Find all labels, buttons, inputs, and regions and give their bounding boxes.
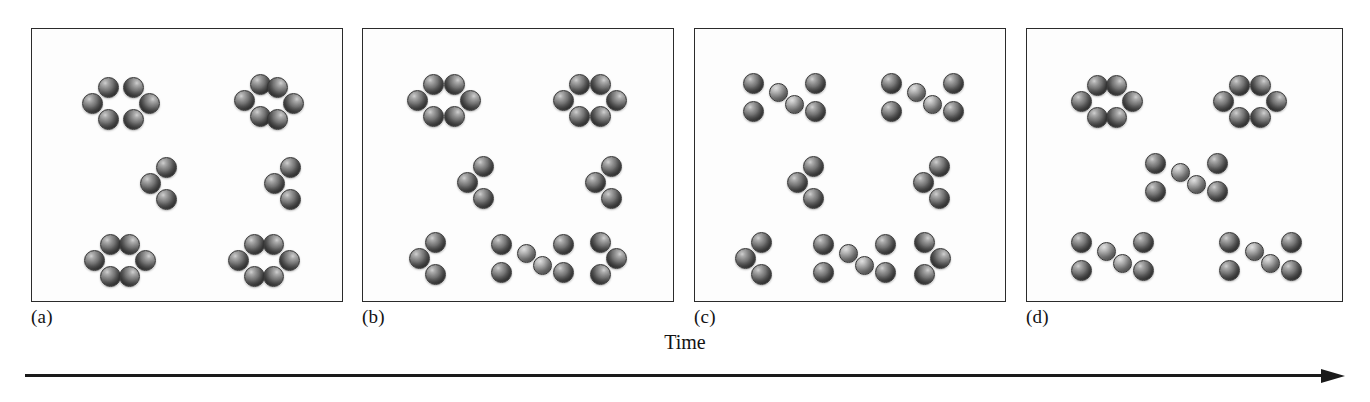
atom [875,234,896,255]
atom [1250,107,1271,128]
atom [1281,260,1302,281]
panel-label-a: (a) [31,306,53,328]
atom [491,262,512,283]
atom [156,189,177,210]
atom [457,172,478,193]
bridge-atom [1261,254,1280,273]
atom [244,266,265,287]
atom [1145,181,1166,202]
atom [743,101,764,122]
atom [135,250,156,271]
atom [228,250,249,271]
atom [1266,91,1287,112]
atom [156,157,177,178]
atom [1087,75,1108,96]
panel-label-c: (c) [694,306,716,328]
atom [1229,107,1250,128]
atom [98,77,119,98]
atom [943,101,964,122]
atom [119,234,140,255]
atom [1145,153,1166,174]
atom [735,248,756,269]
atom [914,232,935,253]
molecule-panel-c [694,28,1006,302]
atom [803,188,824,209]
atom [234,90,255,111]
atom [590,106,611,127]
atom [1133,232,1154,253]
panel-stage [695,29,1005,301]
atom [409,248,430,269]
atom [423,106,444,127]
atom [881,73,902,94]
atom [803,156,824,177]
arrow-right-icon [1321,369,1345,383]
atom [1133,260,1154,281]
atom [553,262,574,283]
atom [805,73,826,94]
atom [425,232,446,253]
atom [283,93,304,114]
panel-stage [32,29,342,301]
atom [929,156,950,177]
atom [590,74,611,95]
panel-stage [1027,29,1342,301]
atom [1213,91,1234,112]
atom [569,106,590,127]
time-axis-label: Time [0,331,1370,354]
bridge-atom [923,95,942,114]
atom [553,234,574,255]
atom [280,157,301,178]
atom [751,264,772,285]
bridge-atom [1187,175,1206,194]
atom [425,264,446,285]
atom [139,93,160,114]
atom [914,264,935,285]
bridge-atom [533,256,552,275]
atom [264,173,285,194]
panel-label-b: (b) [362,306,385,328]
atom [280,189,301,210]
atom [1219,232,1240,253]
atom [943,73,964,94]
atom [813,234,834,255]
atom [244,234,265,255]
bridge-atom [1113,254,1132,273]
atom [1207,181,1228,202]
atom [263,234,284,255]
atom [123,77,144,98]
atom [267,77,288,98]
atom [601,188,622,209]
atom [1207,153,1228,174]
atom [875,262,896,283]
atom [98,109,119,130]
atom [569,74,590,95]
atom [407,90,428,111]
atom [267,109,288,130]
atom [1071,232,1092,253]
atom [553,90,574,111]
atom [119,266,140,287]
atom [491,234,512,255]
atom [881,101,902,122]
atom [1087,107,1108,128]
panel-label-d: (d) [1026,306,1049,328]
atom [82,93,103,114]
time-axis-line [25,374,1323,377]
panel-row: (a)(b)(c)(d) [0,0,1370,330]
atom [606,90,627,111]
atom [929,188,950,209]
atom [444,106,465,127]
bridge-atom [785,95,804,114]
atom [606,248,627,269]
atom [279,250,300,271]
atom [1106,75,1127,96]
atom [1219,260,1240,281]
atom [913,172,934,193]
atom [444,74,465,95]
atom [1281,232,1302,253]
atom [473,156,494,177]
atom [263,266,284,287]
atom [1122,91,1143,112]
panel-stage [363,29,673,301]
